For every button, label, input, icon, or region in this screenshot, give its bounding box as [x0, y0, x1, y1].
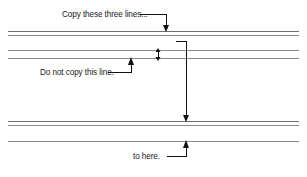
annotation-to-here: to here.	[133, 140, 189, 161]
diagram-canvas: Copy these three lines... Do not copy th…	[0, 0, 307, 177]
leader-line-to-here	[167, 147, 186, 156]
gap-marker-double-arrow	[156, 48, 161, 61]
annotation-label-copy-three-lines: Copy these three lines...	[62, 10, 148, 19]
span-marker-bracket	[176, 41, 186, 116]
span-marker-copy-range	[176, 41, 189, 122]
annotation-copy-three-lines: Copy these three lines...	[62, 10, 169, 32]
horizontal-rules	[8, 32, 299, 142]
line-copy-diagram: Copy these three lines... Do not copy th…	[0, 0, 307, 177]
annotation-do-not-copy: Do not copy this line.	[40, 57, 134, 77]
annotation-label-do-not-copy: Do not copy this line.	[40, 68, 114, 77]
annotation-label-to-here: to here.	[133, 152, 160, 161]
